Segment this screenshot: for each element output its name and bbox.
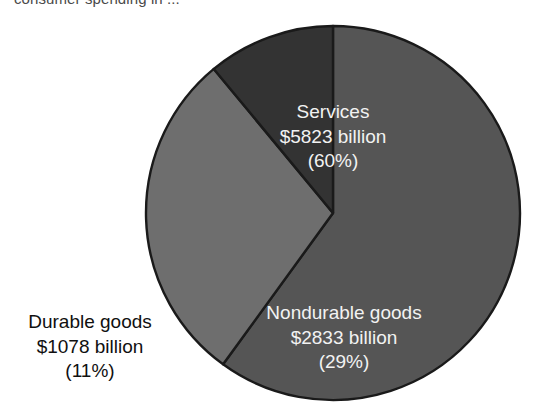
- pie-label-nondurable-goods-name: Nondurable goods: [248, 301, 440, 326]
- pie-label-nondurable-goods-value: $2833 billion: [248, 326, 440, 351]
- pie-chart-figure: Services $5823 billion (60%) Nondurable …: [0, 0, 534, 414]
- pie-label-services-name: Services: [238, 100, 428, 125]
- pie-label-services: Services $5823 billion (60%): [238, 100, 428, 174]
- pie-label-durable-goods-value: $1078 billion: [2, 335, 178, 360]
- pie-label-services-percent: (60%): [238, 149, 428, 174]
- pie-label-durable-goods-name: Durable goods: [2, 310, 178, 335]
- pie-label-nondurable-goods-percent: (29%): [248, 350, 440, 375]
- pie-label-nondurable-goods: Nondurable goods $2833 billion (29%): [248, 301, 440, 375]
- pie-label-services-value: $5823 billion: [238, 125, 428, 150]
- pie-label-durable-goods: Durable goods $1078 billion (11%): [2, 310, 178, 384]
- pie-label-durable-goods-percent: (11%): [2, 359, 178, 384]
